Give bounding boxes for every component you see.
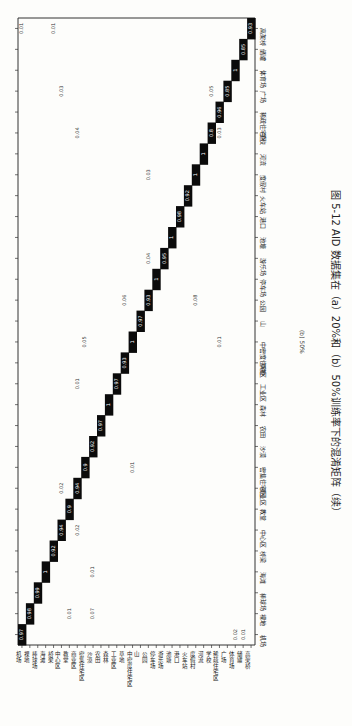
x-tick-label: 工业区	[111, 651, 117, 669]
y-tick-label: 高架桥	[259, 28, 267, 46]
x-tick-label: 广场	[221, 650, 227, 664]
cell-value: 0.03	[58, 86, 64, 97]
cell-value: 0.03	[145, 169, 151, 180]
x-tick-label: 机场	[16, 650, 22, 664]
cell-value: 0.85	[240, 44, 246, 55]
cell-value: 0.01	[240, 629, 246, 640]
cell-value: 0.9	[82, 463, 88, 471]
cell-value: 0.92	[89, 441, 95, 452]
x-tick-label: 草地	[119, 650, 125, 663]
cell-value: 1	[153, 278, 159, 281]
cell-value: 0.02	[74, 524, 80, 535]
x-tick-label: 桥梁	[48, 650, 54, 664]
cell-value: 0.92	[184, 190, 190, 201]
cell-value: 0.05	[208, 86, 214, 97]
cell-value: 0.92	[50, 545, 56, 556]
cell-value: 1	[105, 403, 111, 406]
cell-value: 0.95	[161, 253, 167, 264]
cell-value: 1	[232, 69, 238, 72]
x-tick-label: 稀疏住宅区	[213, 650, 219, 681]
cell-value: 0.03	[216, 127, 222, 138]
y-tick-label: 中密度住宅区	[259, 342, 267, 378]
x-tick-label: 池塘	[166, 650, 172, 664]
cell-value: 0.01	[129, 462, 135, 473]
cell-value: 0.85	[224, 86, 230, 97]
cell-value: 0.97	[113, 378, 119, 389]
x-tick-label: 度假村	[190, 650, 196, 669]
cell-value: 0.02	[58, 483, 64, 494]
cell-value: 0.01	[89, 566, 95, 577]
y-tick-label: 储罐	[259, 49, 267, 61]
x-tick-label: 农田	[95, 650, 101, 664]
x-tick-label: 山	[134, 650, 140, 658]
figure-caption: 图 5-12 AID 数据集在（a）20%和（b）50%训练率下的混淆矩阵（续）	[330, 190, 342, 517]
y-tick-label: 农田	[259, 426, 267, 438]
y-tick-label: 桥梁	[259, 551, 267, 563]
cell-value: 0.01	[216, 336, 222, 347]
y-tick-label: 广场	[259, 91, 267, 103]
y-tick-label: 机场	[259, 635, 267, 647]
cell-value: 0.93	[247, 23, 253, 34]
x-tick-label: 停车场	[150, 650, 156, 670]
cell-value: 1	[192, 173, 198, 176]
x-tick-label: 裸地	[24, 650, 30, 663]
cell-value: 0.04	[74, 127, 80, 138]
cell-value: 0.07	[89, 608, 95, 619]
cell-value: 0.01	[18, 23, 24, 34]
x-tick-label: 港口	[174, 650, 180, 664]
x-tick-label: 棒球场	[32, 650, 38, 670]
cell-value: 1	[168, 236, 174, 239]
cell-value: 0.08	[192, 295, 198, 306]
x-tick-label: 教堂	[63, 650, 69, 663]
confusion-matrix: 机场机场裸地裸地棒球场棒球场海滩海滩桥梁桥梁中心区中心区教堂教堂商业区商业区密集…	[0, 0, 352, 726]
y-tick-label: 棒球场	[259, 593, 267, 611]
y-tick-label: 度假村	[259, 175, 267, 193]
x-tick-label: 商业区	[71, 650, 77, 669]
cell-value: 0.8	[208, 129, 214, 137]
y-tick-label: 港口	[259, 217, 267, 229]
cell-value: 0.01	[50, 23, 56, 34]
cell-value: 0.97	[18, 629, 24, 640]
y-tick-label: 体育场	[259, 70, 267, 88]
cell-value: 1	[42, 570, 48, 573]
cell-value: 0.93	[145, 295, 151, 306]
y-tick-label: 游乐场	[259, 258, 267, 276]
y-tick-label: 裸地	[259, 614, 267, 626]
x-tick-label: 森林	[103, 650, 109, 664]
cell-value: 0.93	[121, 357, 127, 368]
y-tick-label: 海滩	[259, 572, 267, 584]
x-tick-label: 沙漠	[87, 651, 93, 664]
x-tick-label: 密集住宅区	[79, 650, 85, 681]
y-tick-label: 教堂	[259, 509, 267, 521]
y-tick-label: 停车场	[259, 279, 267, 297]
x-tick-label: 中心区	[55, 650, 61, 669]
cell-value: 0.9	[66, 505, 72, 513]
cell-value: 0.98	[26, 608, 32, 619]
cell-value: 0.04	[145, 253, 151, 264]
y-tick-label: 池塘	[259, 237, 267, 249]
cell-value: 0.01	[74, 378, 80, 389]
y-tick-label: 沙漠	[259, 446, 267, 458]
x-tick-label: 储罐	[237, 650, 243, 664]
y-tick-label: 森林	[259, 405, 267, 417]
cell-value: 0.06	[121, 295, 127, 306]
y-tick-label: 中心区	[259, 530, 267, 548]
y-tick-label: 公园	[259, 300, 267, 312]
x-tick-label: 学校	[206, 650, 212, 664]
cell-value: 0.02	[232, 629, 238, 640]
cell-value: 1	[200, 152, 206, 155]
x-tick-label: 火车站	[182, 651, 188, 670]
cell-value: 0.05	[82, 336, 88, 347]
cell-value: 0.98	[176, 211, 182, 222]
x-tick-label: 公园	[142, 651, 148, 664]
y-tick-label: 山	[259, 321, 267, 327]
y-tick-label: 河流	[259, 154, 267, 166]
rotated-page: 机场机场裸地裸地棒球场棒球场海滩海滩桥梁桥梁中心区中心区教堂教堂商业区商业区密集…	[0, 0, 352, 726]
x-tick-label: 海滩	[40, 650, 46, 664]
cell-value: 0.01	[66, 608, 72, 619]
cell-value: 0.97	[137, 315, 143, 326]
y-tick-label: 密集住宅区	[259, 467, 267, 497]
x-tick-label: 游乐场	[158, 650, 164, 670]
y-tick-label: 火车站	[259, 196, 267, 214]
y-tick-label: 稀疏住宅区	[259, 112, 267, 142]
